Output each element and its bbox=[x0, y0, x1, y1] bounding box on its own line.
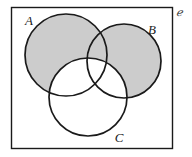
universal-set-symbol: ℯ bbox=[176, 6, 184, 18]
set-label-b: B bbox=[148, 22, 156, 37]
set-label-c: C bbox=[115, 130, 124, 145]
venn-diagram-canvas: A B C ℯ bbox=[0, 0, 192, 157]
set-label-a: A bbox=[24, 13, 33, 28]
venn-diagram-figure: A B C ℯ bbox=[0, 0, 192, 157]
